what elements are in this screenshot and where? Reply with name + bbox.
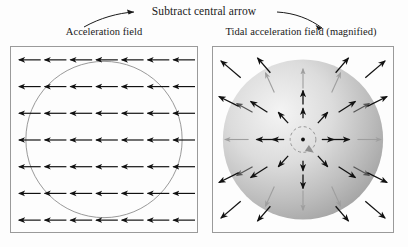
acceleration-field-plot bbox=[11, 47, 197, 232]
left-panel-label: Acceleration field bbox=[10, 26, 198, 37]
uniform-vector-arrows bbox=[19, 60, 195, 220]
tidal-acceleration-field-plot bbox=[213, 47, 393, 232]
figure-caption: Subtract central arrow bbox=[0, 5, 408, 17]
figure-root: Subtract central arrow Acceleration fiel… bbox=[0, 0, 408, 247]
right-panel-label: Tidal acceleration field (magnified) bbox=[202, 26, 400, 37]
acceleration-field-panel bbox=[10, 46, 198, 233]
center-dot bbox=[301, 138, 305, 142]
tidal-acceleration-field-panel bbox=[212, 46, 394, 233]
